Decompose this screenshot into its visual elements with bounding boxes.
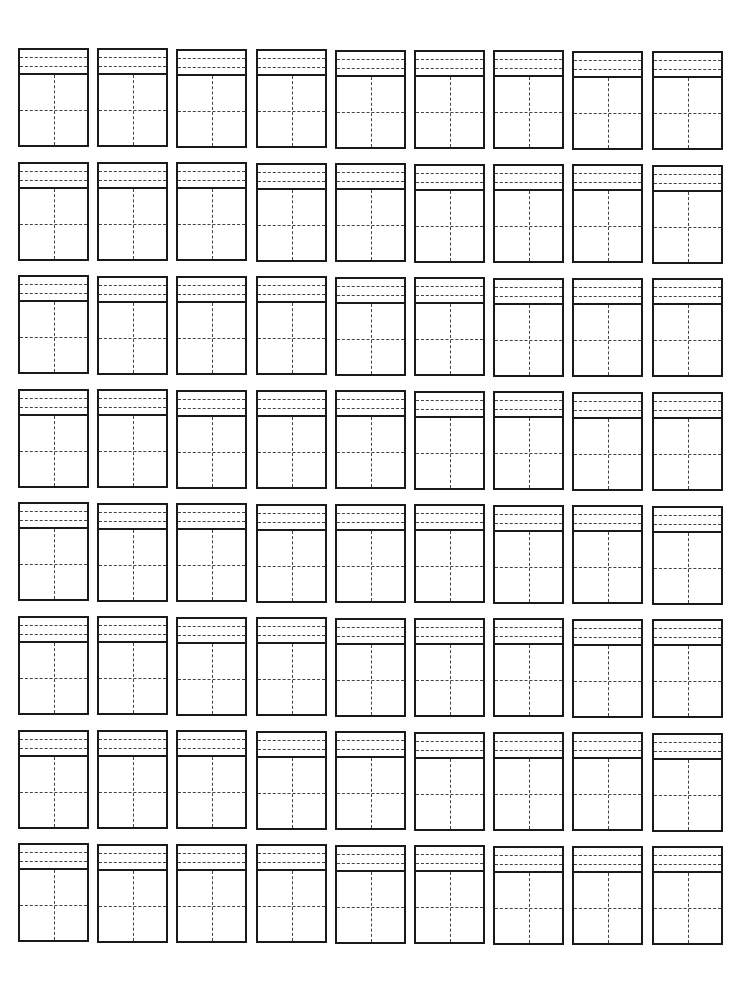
pinyin-guide-line [416,68,483,69]
pinyin-guide-line [258,853,325,854]
pinyin-guide-line [20,852,87,853]
horizontal-center-guide [654,795,721,796]
tianzige-box [654,533,721,603]
pinyin-lines [416,166,483,191]
horizontal-center-guide [258,452,325,453]
pinyin-lines [654,280,721,305]
tianzige-box [337,304,404,374]
pinyin-guide-line [495,523,562,524]
pinyin-guide-line [337,181,404,182]
horizontal-center-guide [337,907,404,908]
practice-cell [256,163,327,262]
practice-cell [256,617,327,716]
horizontal-center-guide [337,225,404,226]
practice-cell [335,731,406,830]
pinyin-lines [574,280,641,305]
tianzige-box [258,531,325,601]
pinyin-lines [574,166,641,191]
horizontal-center-guide [416,907,483,908]
pinyin-guide-line [337,59,404,60]
pinyin-lines [178,278,245,303]
pinyin-lines [258,165,325,190]
pinyin-lines [258,392,325,417]
pinyin-lines [99,391,166,416]
pinyin-guide-line [416,636,483,637]
pinyin-lines [574,53,641,78]
pinyin-guide-line [416,173,483,174]
pinyin-guide-line [654,410,721,411]
tianzige-box [495,532,562,602]
horizontal-center-guide [178,679,245,680]
pinyin-lines [495,734,562,759]
horizontal-center-guide [574,794,641,795]
horizontal-center-guide [20,110,87,111]
pinyin-lines [574,621,641,646]
practice-cell [652,392,723,491]
pinyin-guide-line [178,862,245,863]
horizontal-center-guide [178,452,245,453]
tianzige-box [416,531,483,601]
pinyin-guide-line [20,634,87,635]
practice-cell [414,164,485,263]
pinyin-guide-line [495,182,562,183]
pinyin-guide-line [654,751,721,752]
tianzige-box [416,759,483,829]
pinyin-guide-line [20,293,87,294]
practice-cell [256,731,327,830]
horizontal-center-guide [337,452,404,453]
tianzige-box [574,419,641,489]
pinyin-guide-line [20,739,87,740]
pinyin-guide-line [258,749,325,750]
tianzige-box [20,302,87,372]
pinyin-lines [258,506,325,531]
tianzige-box [416,872,483,942]
tianzige-box [20,416,87,486]
tianzige-box [178,757,245,827]
pinyin-lines [20,732,87,757]
horizontal-center-guide [99,792,166,793]
practice-cell [97,276,168,375]
pinyin-lines [337,52,404,77]
horizontal-center-guide [258,679,325,680]
horizontal-center-guide [20,678,87,679]
pinyin-guide-line [574,750,641,751]
pinyin-guide-line [178,739,245,740]
pinyin-guide-line [178,853,245,854]
practice-cell [652,506,723,605]
pinyin-lines [495,52,562,77]
pinyin-guide-line [495,287,562,288]
pinyin-lines [337,165,404,190]
pinyin-guide-line [99,180,166,181]
pinyin-lines [20,277,87,302]
pinyin-guide-line [574,864,641,865]
pinyin-lines [178,732,245,757]
horizontal-center-guide [654,568,721,569]
pinyin-lines [258,733,325,758]
pinyin-guide-line [178,512,245,513]
practice-cell [176,49,247,148]
pinyin-lines [20,164,87,189]
pinyin-guide-line [495,627,562,628]
tianzige-box [178,417,245,487]
pinyin-lines [337,620,404,645]
horizontal-center-guide [99,906,166,907]
pinyin-lines [337,733,404,758]
tianzige-box [178,871,245,941]
pinyin-guide-line [258,740,325,741]
pinyin-guide-line [654,855,721,856]
pinyin-lines [337,506,404,531]
pinyin-lines [99,164,166,189]
pinyin-guide-line [574,410,641,411]
pinyin-guide-line [495,409,562,410]
practice-cell [652,619,723,718]
pinyin-guide-line [20,284,87,285]
pinyin-guide-line [258,513,325,514]
pinyin-guide-line [20,180,87,181]
pinyin-guide-line [99,521,166,522]
pinyin-guide-line [416,741,483,742]
practice-cell [176,503,247,602]
pinyin-lines [178,505,245,530]
tianzige-box [574,873,641,943]
practice-cell [97,48,168,147]
practice-cell [18,162,89,261]
